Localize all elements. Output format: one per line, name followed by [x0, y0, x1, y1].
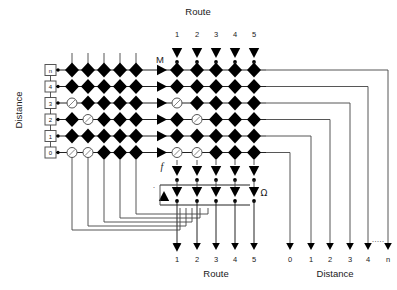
distance-output-label-4: 4 [366, 255, 370, 264]
label-f: f [161, 161, 165, 172]
distance-input-box-0[interactable]: 0 [45, 147, 56, 158]
distance-input-box-2[interactable]: 2 [45, 114, 56, 125]
top-route-label-4: 4 [233, 30, 237, 39]
bottom-route-label-1: 1 [175, 255, 179, 264]
distance-output-label-n: n [386, 255, 390, 264]
top-route-label-5: 5 [252, 30, 256, 39]
distance-output-ellipsis: ····· [372, 237, 385, 246]
right-diamond-matrix [170, 63, 261, 161]
omega-bias-tick: · [153, 183, 156, 192]
routing-diagram-svg: Route 1 2 3 4 5 Distance n [0, 0, 397, 290]
distance-output-label-0: 0 [288, 255, 292, 264]
top-axis-title: Route [185, 6, 210, 17]
top-input-arrow-4 [230, 48, 240, 64]
distance-input-box-4[interactable]: 4 [45, 81, 56, 92]
bottom-route-label-4: 4 [233, 255, 237, 264]
distance-input-box-n[interactable]: n [45, 65, 56, 76]
label-m: M [156, 54, 164, 65]
left-diamond-matrix [65, 63, 143, 161]
top-input-arrow-2 [192, 48, 202, 64]
bottom-axis-title: Route [203, 268, 228, 279]
distance-input-box-1[interactable]: 1 [45, 131, 56, 142]
bottom-route-label-2: 2 [195, 255, 199, 264]
m-amplifier-row-group [157, 65, 167, 158]
top-route-label-2: 2 [195, 30, 199, 39]
omega-threshold-row [172, 187, 259, 203]
feedback-routing-wires [72, 158, 208, 231]
bottom-route-label-5: 5 [252, 255, 256, 264]
top-input-arrow-3 [211, 48, 221, 64]
distance-output-label-1: 1 [309, 255, 313, 264]
bottom-right-axis-title: Distance [317, 268, 354, 279]
label-omega: Ω [261, 188, 268, 198]
distance-input-box-3[interactable]: 3 [45, 98, 56, 109]
diagram-canvas: Route 1 2 3 4 5 Distance n [0, 0, 397, 290]
distance-output-label-2: 2 [328, 255, 332, 264]
bottom-route-label-3: 3 [214, 255, 218, 264]
right-grid-column-stems-bottom [177, 160, 254, 165]
top-route-label-3: 3 [214, 30, 218, 39]
distance-output-routing-wires [266, 70, 388, 243]
f-threshold-row [172, 166, 259, 182]
top-input-arrow-1 [172, 48, 182, 64]
bottom-route-output-arrows [173, 243, 258, 252]
left-axis-title: Distance [13, 92, 24, 129]
top-route-label-1: 1 [175, 30, 179, 39]
top-input-arrow-5 [249, 48, 259, 64]
distance-output-label-3: 3 [348, 255, 352, 264]
distance-input-label-n: n [49, 68, 52, 74]
